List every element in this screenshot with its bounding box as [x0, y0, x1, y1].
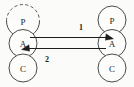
- link-1-label: 1: [79, 23, 83, 32]
- right-agent-control-node[interactable]: C: [98, 54, 126, 82]
- diagram-svg: P A C P A: [0, 0, 134, 87]
- left-agent-presentation-label: P: [20, 17, 25, 27]
- right-agent-group: P A C: [98, 6, 126, 82]
- right-agent-control-label: C: [109, 64, 115, 74]
- left-agent-abstraction-node[interactable]: A: [9, 30, 37, 58]
- link-2-label: 2: [45, 55, 49, 64]
- right-agent-abstraction-label: A: [109, 39, 116, 49]
- left-agent-control-node[interactable]: C: [9, 54, 37, 82]
- pac-diagram-canvas: P A C P A: [0, 0, 134, 87]
- left-agent-group: P A C: [7, 4, 40, 82]
- right-agent-abstraction-node[interactable]: A: [98, 30, 126, 58]
- left-agent-control-label: C: [20, 64, 26, 74]
- right-agent-presentation-label: P: [109, 16, 114, 26]
